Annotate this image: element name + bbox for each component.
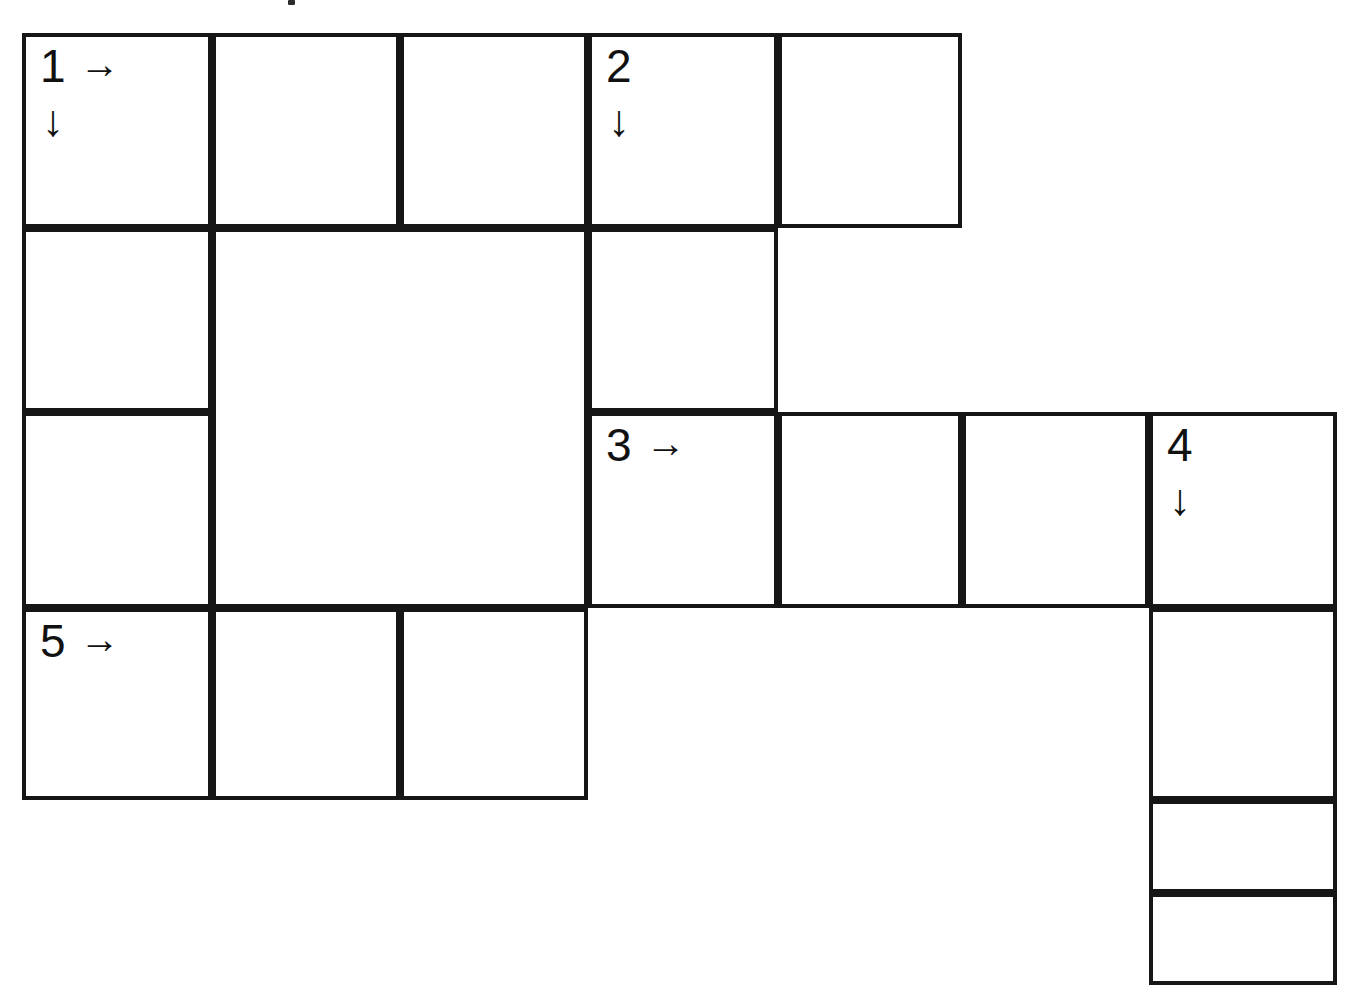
grid-cell[interactable] (778, 412, 962, 608)
grid-cell[interactable] (588, 228, 778, 412)
clue-head: 1→ (40, 43, 120, 89)
clue-number: 4 (1167, 422, 1193, 468)
arrow-right-icon: → (80, 619, 120, 659)
grid-cell-inner: 1→↓ (26, 37, 208, 224)
grid-cell-inner (26, 416, 208, 604)
grid-cell-inner (26, 232, 208, 408)
grid-cell[interactable] (1149, 608, 1337, 800)
grid-cell-inner (1153, 804, 1333, 889)
arrow-down-icon: ↓ (1169, 478, 1191, 522)
grid-cell-inner: 2↓ (592, 37, 774, 224)
grid-cell[interactable] (22, 412, 212, 608)
clue-number: 1 (40, 43, 66, 89)
grid-cell-inner (216, 232, 584, 604)
grid-cell[interactable] (400, 33, 588, 228)
grid-cell-inner (404, 37, 584, 224)
grid-cell-inner: 5→ (26, 612, 208, 796)
grid-cell[interactable] (1149, 800, 1337, 893)
clue-number: 3 (606, 422, 632, 468)
grid-cell[interactable] (212, 33, 400, 228)
grid-cell-inner (966, 416, 1145, 604)
grid-cell[interactable] (22, 228, 212, 412)
grid-cell-inner (404, 612, 584, 796)
arrow-right-icon: → (80, 44, 120, 84)
clue-number: 5 (40, 618, 66, 664)
arrow-down-icon: ↓ (608, 99, 630, 143)
clue-head: 4 (1167, 422, 1193, 468)
grid-cell[interactable] (962, 412, 1149, 608)
clue-down-wrapper: ↓ (608, 99, 630, 143)
grid-cell[interactable] (212, 608, 400, 800)
grid-cell-inner (216, 612, 396, 796)
clue-down-wrapper: ↓ (1169, 478, 1191, 522)
clue-number: 2 (606, 43, 632, 89)
crossword-puzzle: 1→↓2↓3→4↓5→ (0, 0, 1349, 990)
clue-down-wrapper: ↓ (42, 99, 64, 143)
grid-cell[interactable]: 1→↓ (22, 33, 212, 228)
grid-cell-inner (782, 37, 958, 224)
grid-cell[interactable] (778, 33, 962, 228)
crossword-grid: 1→↓2↓3→4↓5→ (0, 0, 1349, 990)
grid-cell-inner: 4↓ (1153, 416, 1333, 604)
grid-cell[interactable]: 2↓ (588, 33, 778, 228)
grid-cell-inner (1153, 897, 1333, 981)
grid-cell-inner (1153, 612, 1333, 796)
clue-head: 2 (606, 43, 632, 89)
scan-artifact (288, 0, 295, 5)
arrow-down-icon: ↓ (42, 99, 64, 143)
grid-cell[interactable] (1149, 893, 1337, 985)
grid-cell-inner (782, 416, 958, 604)
clue-head: 5→ (40, 618, 120, 664)
grid-cell[interactable] (400, 608, 588, 800)
grid-cell[interactable]: 4↓ (1149, 412, 1337, 608)
clue-head: 3→ (606, 422, 686, 468)
grid-cell[interactable] (212, 228, 588, 608)
grid-cell[interactable]: 5→ (22, 608, 212, 800)
grid-cell-inner: 3→ (592, 416, 774, 604)
arrow-right-icon: → (646, 423, 686, 463)
grid-cell-inner (592, 232, 774, 408)
grid-cell-inner (216, 37, 396, 224)
grid-cell[interactable]: 3→ (588, 412, 778, 608)
